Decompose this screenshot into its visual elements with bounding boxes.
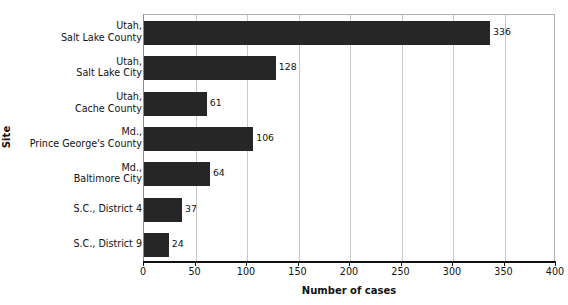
x-axis-tick-label: 150 <box>288 266 306 278</box>
x-axis-title: Number of cases <box>143 285 555 296</box>
bar <box>144 127 253 151</box>
category-label-line: Cache County <box>18 103 142 115</box>
x-axis-tick-label: 400 <box>546 266 564 278</box>
category-label: Utah,Salt Lake City <box>18 56 142 79</box>
bar <box>144 198 182 222</box>
category-label-line: Utah, <box>18 20 142 32</box>
category-label-line: Utah, <box>18 56 142 68</box>
category-label-line: S.C., District 4 <box>18 203 142 215</box>
gridline <box>299 15 300 262</box>
x-axis-tick-label: 350 <box>494 266 512 278</box>
bar-value-label: 336 <box>493 20 511 44</box>
bar <box>144 56 276 80</box>
category-label-line: Prince George's County <box>18 138 142 150</box>
bar-value-label: 24 <box>172 232 184 256</box>
bar <box>144 162 210 186</box>
x-axis-tick-label: 100 <box>237 266 255 278</box>
gridline <box>505 15 506 262</box>
bar-value-label: 64 <box>213 161 225 185</box>
category-label-line: Salt Lake County <box>18 32 142 44</box>
plot-area <box>143 14 555 262</box>
y-axis-title: Site <box>0 117 14 157</box>
category-label: S.C., District 4 <box>18 203 142 215</box>
bar <box>144 92 207 116</box>
bar-value-label: 106 <box>256 126 274 150</box>
bar <box>144 21 490 45</box>
category-label: Md.,Baltimore City <box>18 162 142 185</box>
category-label-line: Utah, <box>18 91 142 103</box>
bar-value-label: 128 <box>279 55 297 79</box>
x-axis-tick-label: 250 <box>391 266 409 278</box>
x-axis-tick-label: 300 <box>443 266 461 278</box>
bar-value-label: 61 <box>210 91 222 115</box>
bar <box>144 233 169 257</box>
x-axis-tick-label: 200 <box>340 266 358 278</box>
category-label: Md.,Prince George's County <box>18 126 142 149</box>
category-label-line: Salt Lake City <box>18 67 142 79</box>
category-label-line: S.C., District 9 <box>18 238 142 250</box>
x-axis-tick-label: 50 <box>188 266 200 278</box>
category-label: Utah,Cache County <box>18 91 142 114</box>
gridline <box>453 15 454 262</box>
category-label-line: Baltimore City <box>18 173 142 185</box>
category-label-column: Utah,Salt Lake CountyUtah,Salt Lake City… <box>18 14 142 262</box>
bar-value-label: 37 <box>185 197 197 221</box>
category-label: Utah,Salt Lake County <box>18 20 142 43</box>
x-axis-tick-label: 0 <box>140 266 146 278</box>
category-label: S.C., District 9 <box>18 238 142 250</box>
category-label-line: Md., <box>18 162 142 174</box>
category-label-line: Md., <box>18 126 142 138</box>
gridline <box>350 15 351 262</box>
y-axis-title-text: Site <box>0 117 14 157</box>
bar-chart: Site Utah,Salt Lake CountyUtah,Salt Lake… <box>0 0 568 305</box>
gridline <box>402 15 403 262</box>
